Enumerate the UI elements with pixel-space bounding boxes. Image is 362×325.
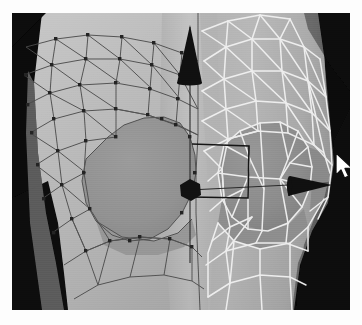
viewport-canvas[interactable] bbox=[12, 13, 350, 310]
gizmo-x-cone-base bbox=[287, 176, 292, 196]
gizmo-y-cone-base bbox=[177, 80, 202, 85]
viewport-3d[interactable] bbox=[12, 13, 350, 310]
application-root: Edit Mode — Face Select Move / Translate… bbox=[0, 0, 362, 325]
